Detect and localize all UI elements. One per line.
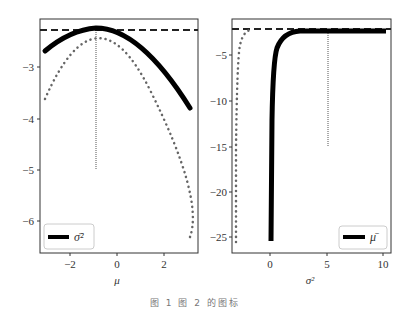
right-plot: −5 −10 −15 −20 −25 0 5 10 σ² μ̄ bbox=[210, 19, 391, 286]
left-xtick-label: 0 bbox=[114, 258, 120, 270]
right-ytick-label: −15 bbox=[210, 141, 228, 153]
left-x-ticks: −2 0 2 bbox=[64, 253, 167, 270]
left-solid-curve bbox=[45, 28, 190, 108]
right-ytick-label: −10 bbox=[210, 95, 228, 107]
right-ytick-label: −25 bbox=[210, 231, 228, 243]
right-xtick-label: 0 bbox=[267, 258, 273, 270]
left-dotted-curve bbox=[45, 38, 193, 237]
left-ytick-label: −4 bbox=[22, 113, 34, 125]
right-xtick-label: 10 bbox=[378, 258, 390, 270]
right-y-ticks: −5 −10 −15 −20 −25 bbox=[210, 49, 232, 243]
right-legend: μ̄ bbox=[339, 226, 387, 249]
left-plot: −3 −4 −5 −6 −2 0 2 μ σ̄² bbox=[22, 19, 198, 286]
right-axes-frame bbox=[232, 19, 391, 253]
right-ytick-label: −20 bbox=[210, 186, 228, 198]
left-legend-label: σ̄² bbox=[74, 230, 84, 244]
right-x-ticks: 0 5 10 bbox=[267, 253, 389, 270]
right-dotted-curve bbox=[236, 30, 250, 242]
left-xtick-label: 2 bbox=[161, 258, 167, 270]
left-xtick-label: −2 bbox=[64, 258, 76, 270]
left-x-axis-label: μ bbox=[113, 274, 120, 286]
left-axes-frame bbox=[40, 19, 198, 253]
left-ytick-label: −3 bbox=[22, 61, 34, 73]
left-ytick-label: −5 bbox=[22, 164, 34, 176]
left-legend: σ̄² bbox=[44, 224, 94, 249]
right-ytick-label: −5 bbox=[215, 49, 227, 61]
right-x-axis-label: σ² bbox=[306, 274, 315, 286]
left-y-ticks: −3 −4 −5 −6 bbox=[22, 61, 40, 227]
figure-caption: 图 1 图 2 的图标 bbox=[150, 296, 240, 309]
left-ytick-label: −6 bbox=[22, 215, 34, 227]
right-xtick-label: 5 bbox=[324, 258, 330, 270]
